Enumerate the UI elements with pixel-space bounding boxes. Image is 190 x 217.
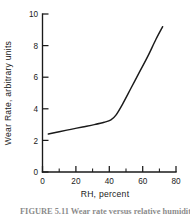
y-tick-label: 0 bbox=[33, 168, 38, 177]
figure-caption-text: FIGURE 5.11 Wear rate versus relative hu… bbox=[0, 207, 190, 216]
x-tick-label: 20 bbox=[71, 177, 81, 186]
y-tick-label: 10 bbox=[29, 10, 39, 19]
figure-caption: FIGURE 5.11 Wear rate versus relative hu… bbox=[0, 207, 190, 217]
x-tick-label: 80 bbox=[171, 177, 181, 186]
wear-rate-line-chart: 0 2 4 6 8 10 0 20 40 60 80 RH, percent W… bbox=[0, 0, 190, 200]
x-tick-label: 40 bbox=[105, 177, 115, 186]
y-tick-label: 2 bbox=[33, 137, 38, 146]
y-tick-label: 4 bbox=[33, 105, 38, 114]
y-tick-label: 8 bbox=[33, 42, 38, 51]
x-tick-label: 0 bbox=[40, 177, 45, 186]
x-axis-title: RH, percent bbox=[81, 189, 130, 199]
x-tick-label: 60 bbox=[138, 177, 148, 186]
figure-container: 0 2 4 6 8 10 0 20 40 60 80 RH, percent W… bbox=[0, 0, 190, 217]
y-tick-label: 6 bbox=[33, 73, 38, 82]
y-axis-title: Wear Rate, arbitrary units bbox=[3, 41, 13, 145]
